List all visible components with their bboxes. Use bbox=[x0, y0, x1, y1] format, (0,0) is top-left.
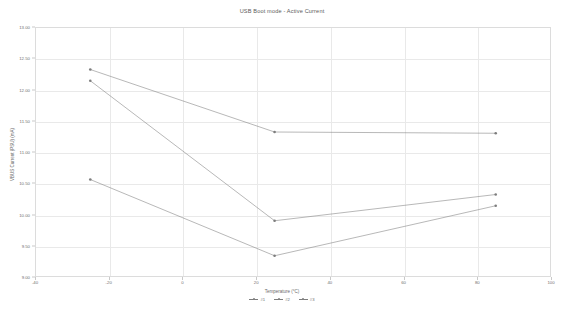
x-axis-tick-label: -20 bbox=[106, 280, 112, 285]
y-axis-tick-mark bbox=[32, 120, 35, 121]
x-axis-tick-mark bbox=[109, 277, 110, 280]
y-axis-tick-label: 13.00 bbox=[2, 25, 30, 30]
x-axis-tick-label: -40 bbox=[32, 280, 38, 285]
legend-line-swatch bbox=[274, 299, 283, 300]
legend-item-label: #3 bbox=[310, 297, 315, 302]
x-axis-tick-label: 0 bbox=[181, 280, 183, 285]
legend-item[interactable]: #2 bbox=[274, 297, 290, 302]
x-axis-tick-mark bbox=[330, 277, 331, 280]
y-axis-tick-mark bbox=[32, 214, 35, 215]
y-axis-tick-label: 10.00 bbox=[2, 212, 30, 217]
y-axis-tick-label: 12.50 bbox=[2, 56, 30, 61]
x-axis-tick-mark bbox=[477, 277, 478, 280]
legend-line-swatch bbox=[249, 299, 258, 300]
legend-item-label: #2 bbox=[285, 297, 290, 302]
y-axis-tick-mark bbox=[32, 277, 35, 278]
y-axis-tick-label: 9.50 bbox=[2, 243, 30, 248]
y-axis-tick-label: 10.50 bbox=[2, 181, 30, 186]
y-axis-tick-label: 11.50 bbox=[2, 118, 30, 123]
x-axis-tick-mark bbox=[551, 277, 552, 280]
x-axis-tick-mark bbox=[182, 277, 183, 280]
x-axis-tick-mark bbox=[35, 277, 36, 280]
x-axis-tick-label: 20 bbox=[254, 280, 259, 285]
y-axis-title: VBUS Current (PSU) (mA) bbox=[10, 115, 15, 195]
x-axis-tick-mark bbox=[256, 277, 257, 280]
chart-legend: #1#2#3 bbox=[0, 297, 564, 302]
y-axis-tick-label: 11.00 bbox=[2, 150, 30, 155]
y-axis-tick-label: 12.00 bbox=[2, 87, 30, 92]
chart-container: USB Boot mode - Active Current 9.009.501… bbox=[0, 0, 564, 309]
x-axis-title: Temperature (°C) bbox=[0, 289, 564, 294]
y-axis-tick-label: 9.00 bbox=[2, 275, 30, 280]
y-axis-tick-mark bbox=[32, 183, 35, 184]
y-axis-tick-mark bbox=[32, 245, 35, 246]
y-axis-tick-labels: 9.009.5010.0010.5011.0011.5012.0012.5013… bbox=[0, 0, 564, 309]
legend-item-label: #1 bbox=[260, 297, 265, 302]
x-axis-tick-label: 80 bbox=[475, 280, 480, 285]
legend-item[interactable]: #1 bbox=[249, 297, 265, 302]
y-axis-tick-mark bbox=[32, 27, 35, 28]
x-axis-tick-label: 60 bbox=[401, 280, 406, 285]
y-axis-tick-mark bbox=[32, 89, 35, 90]
y-axis-tick-mark bbox=[32, 58, 35, 59]
x-axis-tick-mark bbox=[404, 277, 405, 280]
x-axis-tick-label: 40 bbox=[327, 280, 332, 285]
y-axis-tick-mark bbox=[32, 152, 35, 153]
x-axis-tick-label: 100 bbox=[547, 280, 554, 285]
legend-item[interactable]: #3 bbox=[299, 297, 315, 302]
legend-line-swatch bbox=[299, 299, 308, 300]
